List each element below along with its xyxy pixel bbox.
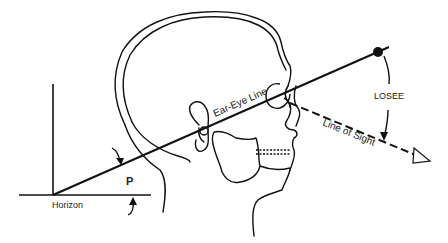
losee-reference-dot	[373, 47, 383, 57]
p-angle-label: P	[126, 175, 133, 187]
horizon-label: Horizon	[52, 200, 83, 210]
line-of-sight-label: Line of Sight	[321, 117, 377, 148]
losee-label: LOSEE	[374, 91, 404, 101]
jaw-and-teeth	[213, 131, 291, 182]
ear-eye-line-label: Ear-Eye Line	[211, 85, 269, 119]
diagram-canvas: Ear-Eye Line LOSEE Line of Sight P Horiz…	[0, 0, 448, 243]
line-of-sight-arrowhead	[413, 148, 430, 163]
head-posture-diagram: Ear-Eye Line LOSEE Line of Sight P Horiz…	[0, 0, 448, 243]
ear	[189, 102, 208, 152]
head-outline	[115, 12, 291, 212]
